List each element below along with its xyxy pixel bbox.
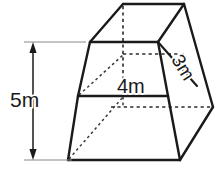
dim-arrow-up-icon — [29, 42, 36, 53]
geometry-figure: 5m 4m 3m — [0, 0, 223, 191]
lower-front-face-fill — [68, 96, 180, 160]
frustum-diagram-svg: 5m 4m 3m — [0, 0, 223, 191]
height-label-5m: 5m — [10, 88, 39, 111]
top-width-label-4m: 4m — [117, 75, 145, 97]
dim-arrow-down-icon — [29, 149, 36, 160]
